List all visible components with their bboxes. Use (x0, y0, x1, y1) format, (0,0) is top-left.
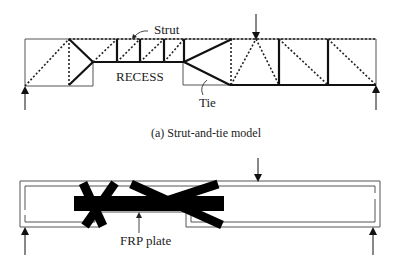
tie-leader-line (202, 80, 207, 95)
frp-strengthening-model: FRP plate (20, 158, 380, 255)
strut-diagonal (25, 39, 69, 86)
strut-diagonal (231, 39, 256, 85)
strut-diagonal (164, 39, 184, 62)
tie-diagonal (184, 39, 232, 62)
tie-diagonal (69, 39, 93, 62)
frp-plate-label: FRP plate (120, 233, 171, 248)
tie-label: Tie (199, 95, 216, 110)
diagram-canvas: Strut RECESS Tie (a) Strut-and-tie model… (0, 0, 402, 267)
tie-diagonal (184, 62, 230, 85)
tie-diagonal (69, 62, 93, 85)
strut-diagonal (279, 39, 328, 85)
strut-and-tie-model: Strut RECESS Tie (a) Strut-and-tie model (25, 14, 376, 140)
strut-diagonal (93, 39, 117, 62)
strut-leader-line (134, 31, 148, 37)
strut-label: Strut (154, 22, 180, 37)
strut-diagonal (140, 39, 164, 62)
caption-a: (a) Strut-and-tie model (151, 126, 262, 140)
strut-diagonal (256, 39, 279, 85)
strut-diagonal (117, 39, 140, 62)
leader-arrowhead-icon (136, 212, 142, 218)
strut-diagonal (328, 39, 376, 85)
recess-label: RECESS (116, 69, 164, 84)
